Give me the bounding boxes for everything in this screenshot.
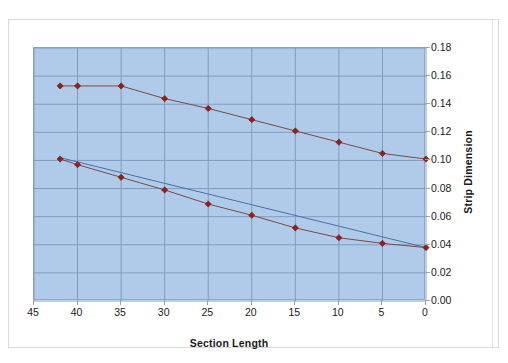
data-point-marker	[379, 150, 385, 156]
series-lines	[60, 86, 426, 248]
x-axis-tick-mark	[251, 300, 252, 305]
x-axis-tick-label: 5	[366, 307, 396, 318]
y-axis-tick-mark	[425, 188, 430, 189]
plot-svg	[34, 48, 426, 301]
x-axis-tick-mark	[164, 300, 165, 305]
y-axis-title: Strip Dimension	[462, 102, 474, 242]
data-point-marker	[249, 117, 255, 123]
y-axis-tick-mark	[425, 47, 430, 48]
series-line-lower-reference-line	[60, 158, 426, 248]
x-axis-tick-mark	[294, 300, 295, 305]
y-axis-tick-mark	[425, 272, 430, 273]
y-axis-tick-label: 0.00	[431, 295, 471, 306]
y-axis-tick-mark	[425, 159, 430, 160]
x-axis-tick-label: 45	[18, 307, 48, 318]
x-axis-tick-label: 0	[410, 307, 440, 318]
x-axis-tick-label: 40	[62, 307, 92, 318]
y-axis-tick-label: 0.02	[431, 267, 471, 278]
x-axis-tick-label: 15	[279, 307, 309, 318]
y-axis-tick-mark	[425, 216, 430, 217]
x-axis-tick-mark	[77, 300, 78, 305]
data-point-marker	[118, 83, 124, 89]
x-axis-tick-mark	[207, 300, 208, 305]
data-point-marker	[74, 83, 80, 89]
x-axis-tick-label: 30	[149, 307, 179, 318]
y-axis-tick-mark	[425, 244, 430, 245]
data-point-marker	[57, 156, 63, 162]
x-axis-tick-mark	[381, 300, 382, 305]
y-axis-tick-mark	[425, 103, 430, 104]
x-axis-tick-label: 20	[236, 307, 266, 318]
data-point-marker	[57, 83, 63, 89]
x-axis-tick-mark	[120, 300, 121, 305]
x-axis-tick-mark	[33, 300, 34, 305]
x-axis-tick-label: 10	[323, 307, 353, 318]
data-point-marker	[205, 201, 211, 207]
right-divider	[492, 20, 493, 347]
x-axis-tick-mark	[338, 300, 339, 305]
data-point-marker	[249, 212, 255, 218]
series-line-upper-strip-dimension	[60, 86, 426, 159]
data-point-marker	[162, 96, 168, 102]
y-axis-tick-label: 0.18	[431, 42, 471, 53]
series-markers	[57, 83, 429, 251]
y-axis-tick-mark	[425, 131, 430, 132]
chart-container: 0.000.020.040.060.080.100.120.140.160.18…	[0, 0, 508, 363]
x-axis-tick-label: 25	[192, 307, 222, 318]
data-point-marker	[205, 105, 211, 111]
x-axis-tick-mark	[425, 300, 426, 305]
x-axis-tick-label: 35	[105, 307, 135, 318]
data-point-marker	[292, 128, 298, 134]
y-axis-tick-mark	[425, 75, 430, 76]
data-point-marker	[336, 235, 342, 241]
data-point-marker	[379, 240, 385, 246]
y-axis-tick-label: 0.16	[431, 70, 471, 81]
data-point-marker	[118, 174, 124, 180]
data-point-marker	[292, 225, 298, 231]
data-point-marker	[336, 139, 342, 145]
data-point-marker	[162, 187, 168, 193]
x-axis-title: Section Length	[33, 337, 425, 349]
plot-area	[33, 47, 425, 300]
